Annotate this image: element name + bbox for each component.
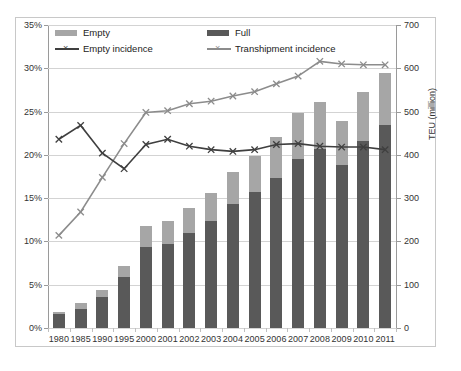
right-axis-tick-mark xyxy=(397,285,401,286)
left-axis-tick-label: 5% xyxy=(2,281,42,290)
right-axis-tick-label: 600 xyxy=(404,64,438,73)
x-axis-tick-mark xyxy=(92,328,93,332)
marker-x-empty-incidence xyxy=(121,166,127,172)
right-axis-tick-mark xyxy=(397,155,401,156)
x-axis-tick-mark xyxy=(70,328,71,332)
right-axis-tick-label: 400 xyxy=(404,151,438,160)
right-axis-line xyxy=(396,25,397,329)
x-axis-tick-mark xyxy=(135,328,136,332)
x-axis-tick-mark xyxy=(287,328,288,332)
x-axis-tick-mark xyxy=(157,328,158,332)
left-axis-tick-mark xyxy=(44,155,48,156)
marker-x-transhipment-incidence xyxy=(121,140,127,146)
x-axis-tick-mark xyxy=(200,328,201,332)
right-axis-tick-label: 100 xyxy=(404,281,438,290)
left-axis-tick-label: 15% xyxy=(2,194,42,203)
chart-legend: Empty Full × Empty incidence × Transhipm… xyxy=(55,27,355,63)
legend-label-full: Full xyxy=(235,27,250,38)
left-axis-tick-mark xyxy=(44,68,48,69)
right-axis-tick-mark xyxy=(397,112,401,113)
legend-swatch-full xyxy=(207,30,229,36)
plot-area xyxy=(48,25,396,328)
left-axis-tick-mark xyxy=(44,241,48,242)
left-axis-tick-mark xyxy=(44,285,48,286)
x-axis-tick-label: 2011 xyxy=(370,334,400,344)
x-axis-tick-mark xyxy=(309,328,310,332)
legend-label-empty: Empty xyxy=(83,27,110,38)
right-axis-tick-label: 300 xyxy=(404,194,438,203)
x-axis-tick-mark xyxy=(396,328,397,332)
x-axis-tick-mark xyxy=(48,328,49,332)
x-axis-tick-mark xyxy=(179,328,180,332)
line-series-group xyxy=(48,25,396,328)
chart-figure: 0%5%10%15%20%25%30%35% 01002003004005006… xyxy=(0,0,461,371)
marker-x-transhipment-incidence xyxy=(99,174,105,180)
left-axis-tick-label: 10% xyxy=(2,237,42,246)
left-axis-tick-mark xyxy=(44,112,48,113)
x-axis-tick-mark xyxy=(113,328,114,332)
x-axis-tick-mark xyxy=(222,328,223,332)
right-axis-tick-mark xyxy=(397,241,401,242)
line-path-transhipment-incidence xyxy=(59,61,385,235)
right-axis-tick-label: 0 xyxy=(404,324,438,333)
right-axis-tick-mark xyxy=(397,198,401,199)
marker-x-empty-incidence xyxy=(56,136,62,142)
x-axis-tick-mark xyxy=(266,328,267,332)
left-axis-tick-label: 20% xyxy=(2,151,42,160)
x-axis-tick-mark xyxy=(353,328,354,332)
legend-label-transhipment-incidence: Transhipment incidence xyxy=(235,43,336,54)
x-axis-tick-mark xyxy=(331,328,332,332)
legend-marker-transhipment-incidence: × xyxy=(215,44,220,53)
right-axis-tick-label: 200 xyxy=(404,237,438,246)
right-axis-title: TEU (million) xyxy=(427,88,437,140)
right-axis-tick-mark xyxy=(397,68,401,69)
left-axis-tick-mark xyxy=(44,25,48,26)
left-axis-tick-label: 30% xyxy=(2,64,42,73)
right-axis-tick-mark xyxy=(397,25,401,26)
left-axis-tick-label: 25% xyxy=(2,108,42,117)
right-axis-tick-label: 700 xyxy=(404,21,438,30)
left-axis-tick-label: 0% xyxy=(2,324,42,333)
legend-marker-empty-incidence: × xyxy=(63,44,68,53)
marker-x-transhipment-incidence xyxy=(77,209,83,215)
legend-label-empty-incidence: Empty incidence xyxy=(83,43,153,54)
marker-x-empty-incidence xyxy=(77,122,83,128)
left-axis-tick-mark xyxy=(44,198,48,199)
right-axis-tick-mark xyxy=(397,328,401,329)
legend-swatch-empty xyxy=(55,30,77,36)
x-axis-tick-mark xyxy=(374,328,375,332)
left-axis-tick-label: 35% xyxy=(2,21,42,30)
x-axis-tick-mark xyxy=(244,328,245,332)
marker-x-transhipment-incidence xyxy=(56,232,62,238)
line-path-empty-incidence xyxy=(59,125,385,168)
marker-x-empty-incidence xyxy=(99,150,105,156)
